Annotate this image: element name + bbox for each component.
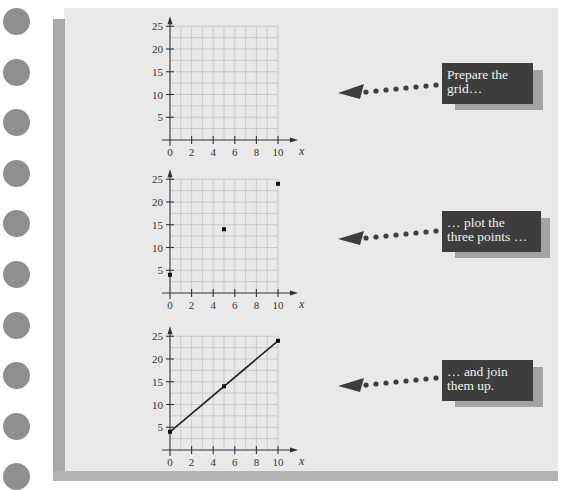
callout-box: … and join them up.: [442, 360, 533, 401]
callout-text-line2: them up.: [447, 379, 527, 393]
callout-text-line1: … and join: [447, 365, 527, 379]
